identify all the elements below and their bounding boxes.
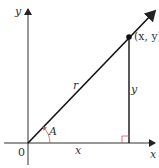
trig-diagram: y x 0 (x, y) r y x A [0, 0, 159, 168]
opposite-label: y [130, 83, 138, 96]
y-axis-label: y [14, 5, 22, 18]
point-marker [126, 34, 132, 40]
right-angle-marker [122, 136, 129, 143]
hypotenuse-label: r [73, 79, 79, 92]
adjacent-label: x [75, 144, 82, 157]
origin-label: 0 [18, 146, 25, 159]
point-label: (x, y) [134, 30, 159, 43]
angle-label: A [48, 125, 57, 138]
x-axis-label: x [150, 148, 157, 161]
